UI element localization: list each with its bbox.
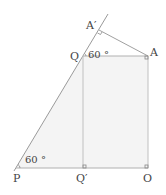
- label-Q: Q: [70, 51, 79, 62]
- diagram-lines: [0, 0, 166, 195]
- geometry-diagram: A′ Q 60 ° A 60 ° P Q′ O: [0, 0, 166, 195]
- label-A-prime: A′: [86, 20, 96, 31]
- label-Q-prime: Q′: [76, 173, 88, 184]
- label-O: O: [143, 173, 152, 184]
- shaded-region: [16, 56, 148, 168]
- label-A: A: [150, 47, 158, 58]
- angle-label-P: 60 °: [25, 155, 46, 165]
- right-angle-marker-A-prime: [98, 32, 103, 35]
- angle-label-Q: 60 °: [88, 50, 109, 60]
- label-P: P: [13, 173, 20, 184]
